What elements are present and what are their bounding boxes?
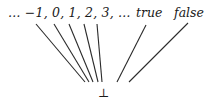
edge-0-bottom — [54, 24, 89, 82]
edge-1-bottom — [69, 24, 93, 82]
edge-minus1-bottom — [36, 24, 85, 82]
edge-true-bottom — [117, 25, 146, 82]
flat-domain-diagram: … −1, 0, 1, 2, 3, … true false ⊥ — [0, 0, 207, 103]
edge-false-bottom — [129, 23, 188, 82]
bottom-element-label: ⊥ — [98, 87, 109, 99]
edge-2-bottom — [84, 24, 98, 82]
edge-3-bottom — [97, 24, 102, 82]
